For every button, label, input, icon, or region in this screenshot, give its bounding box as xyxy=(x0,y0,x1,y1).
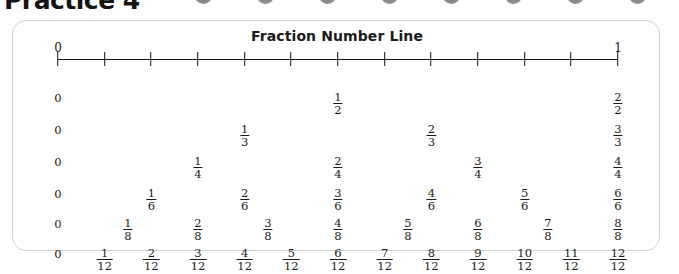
fraction-label: 48 xyxy=(333,217,342,242)
fraction-denominator: 12 xyxy=(283,259,300,272)
fraction-label: 0 xyxy=(54,217,61,230)
fraction-denominator: 12 xyxy=(610,259,627,272)
fraction-label: 812 xyxy=(423,247,440,272)
fraction-numerator: 3 xyxy=(190,247,207,259)
fraction-label: 0 xyxy=(54,247,61,260)
fraction-whole: 0 xyxy=(54,247,61,260)
fraction-denominator: 4 xyxy=(333,167,342,180)
fraction-row-eighths: 01828384858687888 xyxy=(58,217,618,247)
fraction-denominator: 8 xyxy=(333,229,342,242)
fraction-label: 44 xyxy=(613,155,622,180)
fraction-label: 18 xyxy=(123,217,132,242)
fraction-denominator: 4 xyxy=(193,167,202,180)
axis-tick xyxy=(524,52,525,66)
fraction-denominator: 8 xyxy=(193,229,202,242)
fraction-row-twelfths: 0112212312412512612712812912101211121212 xyxy=(58,247,618,274)
fraction-label: 58 xyxy=(403,217,412,242)
worksheet-heading-dot xyxy=(567,0,584,4)
worksheet-heading-dot xyxy=(505,0,522,4)
fraction-numerator: 8 xyxy=(423,247,440,259)
fraction-denominator: 8 xyxy=(543,229,552,242)
fraction-denominator: 3 xyxy=(240,135,249,148)
fraction-denominator: 12 xyxy=(563,259,580,272)
worksheet-heading-dots xyxy=(195,0,675,13)
fraction-numerator: 3 xyxy=(613,123,622,135)
worksheet-heading-dot xyxy=(629,0,646,4)
fraction-label: 36 xyxy=(333,187,342,212)
fraction-label: 0 xyxy=(54,91,61,104)
axis-tick xyxy=(571,52,572,66)
fraction-whole: 0 xyxy=(54,217,61,230)
axis-tick xyxy=(151,52,152,66)
fraction-numerator: 3 xyxy=(473,155,482,167)
fraction-whole: 0 xyxy=(54,187,61,200)
fraction-denominator: 12 xyxy=(516,259,533,272)
fraction-row-sixths: 0162636465666 xyxy=(58,187,618,217)
fraction-numerator: 4 xyxy=(613,155,622,167)
fraction-whole: 0 xyxy=(54,91,61,104)
fraction-label: 34 xyxy=(473,155,482,180)
fraction-label: 24 xyxy=(333,155,342,180)
fraction-numerator: 9 xyxy=(470,247,487,259)
fraction-label: 88 xyxy=(613,217,622,242)
fraction-numerator: 5 xyxy=(283,247,300,259)
fraction-denominator: 6 xyxy=(240,199,249,212)
fraction-numerator: 1 xyxy=(96,247,113,259)
fraction-numerator: 6 xyxy=(473,217,482,229)
fraction-denominator: 12 xyxy=(190,259,207,272)
fraction-numerator: 6 xyxy=(613,187,622,199)
fraction-numerator: 11 xyxy=(563,247,580,259)
fraction-label: 1012 xyxy=(516,247,533,272)
fraction-denominator: 8 xyxy=(473,229,482,242)
fraction-label: 14 xyxy=(193,155,202,180)
fraction-label: 66 xyxy=(613,187,622,212)
fraction-numerator: 1 xyxy=(193,155,202,167)
fraction-number-line-card: Fraction Number Line 0 1 012220132333014… xyxy=(12,20,660,251)
fraction-label: 28 xyxy=(193,217,202,242)
fraction-row-halves: 01222 xyxy=(58,91,618,121)
fraction-label: 56 xyxy=(520,187,529,212)
fraction-denominator: 6 xyxy=(520,199,529,212)
axis-tick xyxy=(337,52,338,66)
fraction-denominator: 6 xyxy=(147,199,156,212)
fraction-numerator: 2 xyxy=(427,123,436,135)
worksheet-heading-dot xyxy=(195,0,212,4)
fraction-label: 78 xyxy=(543,217,552,242)
fraction-label: 612 xyxy=(330,247,347,272)
fraction-denominator: 12 xyxy=(470,259,487,272)
fraction-denominator: 12 xyxy=(330,259,347,272)
fraction-label: 68 xyxy=(473,217,482,242)
fraction-label: 0 xyxy=(54,187,61,200)
axis-tick xyxy=(104,52,105,66)
fraction-numerator: 2 xyxy=(143,247,160,259)
fraction-label: 22 xyxy=(613,91,622,116)
fraction-label: 13 xyxy=(240,123,249,148)
fraction-label: 16 xyxy=(147,187,156,212)
fraction-numerator: 6 xyxy=(330,247,347,259)
fraction-denominator: 12 xyxy=(376,259,393,272)
fraction-numerator: 12 xyxy=(610,247,627,259)
fraction-numerator: 1 xyxy=(123,217,132,229)
fraction-denominator: 4 xyxy=(613,167,622,180)
fraction-denominator: 2 xyxy=(613,103,622,116)
fraction-numerator: 3 xyxy=(263,217,272,229)
fraction-denominator: 3 xyxy=(427,135,436,148)
fraction-label: 0 xyxy=(54,155,61,168)
fraction-numerator: 1 xyxy=(333,91,342,103)
fraction-numerator: 5 xyxy=(520,187,529,199)
fraction-numerator: 2 xyxy=(193,217,202,229)
fraction-label: 412 xyxy=(236,247,253,272)
fraction-row-fourths: 014243444 xyxy=(58,155,618,185)
fraction-numerator: 7 xyxy=(543,217,552,229)
fraction-denominator: 8 xyxy=(403,229,412,242)
axis-tick xyxy=(291,52,292,66)
number-line-chart: 0 1 012220132333014243444016263646566601… xyxy=(58,21,618,252)
axis-tick xyxy=(57,52,58,66)
fraction-row-thirds: 0132333 xyxy=(58,123,618,153)
fraction-denominator: 6 xyxy=(427,199,436,212)
axis-tick xyxy=(197,52,198,66)
fraction-label: 112 xyxy=(96,247,113,272)
fraction-label: 312 xyxy=(190,247,207,272)
fraction-label: 26 xyxy=(240,187,249,212)
fraction-numerator: 4 xyxy=(427,187,436,199)
